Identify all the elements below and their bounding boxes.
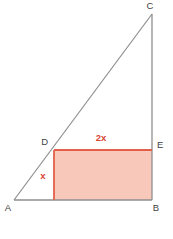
rect-height-measurement-label: x [40, 170, 46, 181]
triangle-rectangle-diagram: C D E A B 2x x [0, 0, 173, 239]
rect-width-measurement-label: 2x [96, 132, 107, 143]
vertex-label-a: A [5, 202, 12, 213]
vertex-label-d: D [41, 136, 48, 147]
vertex-label-c: C [147, 0, 154, 11]
inscribed-rectangle [54, 150, 152, 200]
geometry-figure: C D E A B 2x x [0, 0, 173, 239]
vertex-label-e: E [157, 139, 163, 150]
vertex-label-b: B [153, 202, 159, 213]
